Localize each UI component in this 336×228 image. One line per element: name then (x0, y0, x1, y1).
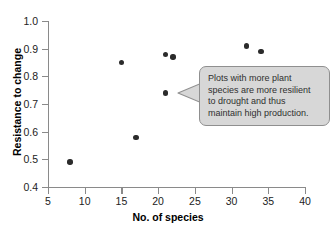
data-point (133, 135, 138, 140)
x-axis-tick-label: 20 (143, 196, 173, 207)
x-axis-tick (85, 188, 86, 194)
x-axis-tick (48, 188, 49, 194)
data-point (163, 90, 168, 95)
x-axis-tick (268, 188, 269, 194)
y-axis-tick-label: 0.4 (4, 182, 38, 193)
data-point (258, 49, 263, 54)
data-point (170, 54, 175, 59)
y-axis-title: Resistance to change (11, 22, 23, 182)
annotation-callout: Plots with more plant species are more r… (199, 66, 330, 126)
x-axis-tick (305, 188, 306, 194)
x-axis-tick-label: 40 (290, 196, 320, 207)
x-axis-tick (121, 188, 122, 194)
y-axis-tick (42, 159, 48, 160)
y-axis-tick (42, 104, 48, 105)
x-axis-tick-label: 5 (33, 196, 63, 207)
x-axis-tick (232, 188, 233, 194)
data-point (244, 43, 249, 48)
x-axis-tick-label: 15 (106, 196, 136, 207)
y-axis-tick (42, 49, 48, 50)
x-axis-tick-label: 10 (70, 196, 100, 207)
x-axis-tick-label: 35 (253, 196, 283, 207)
callout-text: Plots with more plant species are more r… (208, 73, 324, 119)
scatter-plot-figure: 1.0 0.9 0.8 0.7 0.6 0.5 0.4 5 10 15 20 2… (0, 0, 336, 228)
y-axis-tick (42, 76, 48, 77)
y-axis-tick (42, 132, 48, 133)
x-axis-title: No. of species (0, 211, 336, 223)
data-point (67, 159, 72, 164)
x-axis-tick-label: 30 (217, 196, 247, 207)
x-axis-tick (158, 188, 159, 194)
data-point (163, 52, 168, 57)
y-axis-tick (42, 21, 48, 22)
x-axis-tick-label: 25 (180, 196, 210, 207)
x-axis-line (48, 187, 306, 188)
x-axis-tick (195, 188, 196, 194)
